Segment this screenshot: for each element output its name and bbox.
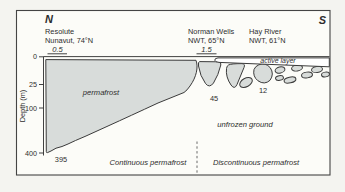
station-norman-wells-name: Norman Wells bbox=[188, 27, 235, 36]
station-hay-river-name: Hay River bbox=[249, 27, 282, 36]
station-hay-river-region: NWT, 61°N bbox=[249, 36, 286, 45]
station-resolute-name: Resolute bbox=[45, 27, 74, 36]
permafrost-blob bbox=[321, 72, 330, 78]
depth-value-norman-wells: 45 bbox=[210, 94, 218, 103]
depth-value-resolute: 395 bbox=[55, 155, 67, 164]
permafrost-zone-label: permafrost bbox=[82, 88, 120, 97]
active-layer-label: active layer bbox=[260, 57, 296, 65]
permafrost-blob-hay-river bbox=[254, 64, 273, 83]
depth-axis-label: Depth (m) bbox=[18, 90, 27, 122]
active-layer-thickness-resolute: 0.5 bbox=[52, 45, 63, 54]
station-resolute-region: Nunavut, 74°N bbox=[45, 36, 93, 45]
discontinuous-permafrost-label: Discontinuous permafrost bbox=[213, 158, 300, 167]
south-label: S bbox=[319, 14, 327, 26]
tick-label-0: 0 bbox=[33, 52, 37, 61]
active-layer-thickness-norman-wells: 1.5 bbox=[201, 45, 212, 54]
permafrost-cross-section-figure: 0 25 100 400 Depth (m) N S Resolute Nuna… bbox=[0, 0, 345, 192]
tick-label-25: 25 bbox=[29, 80, 37, 89]
unfrozen-ground-label: unfrozen ground bbox=[217, 120, 273, 129]
tick-label-400: 400 bbox=[25, 149, 37, 158]
station-norman-wells-region: NWT, 65°N bbox=[188, 36, 225, 45]
depth-value-hay-river: 12 bbox=[259, 86, 267, 95]
north-label: N bbox=[45, 13, 54, 25]
continuous-permafrost-label: Continuous permafrost bbox=[110, 158, 188, 167]
